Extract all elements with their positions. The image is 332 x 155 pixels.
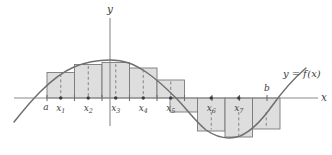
lower-bound-label-a: a: [43, 102, 48, 112]
x-axis-label: x: [321, 91, 327, 103]
upper-bound-label-b: b: [264, 83, 270, 93]
tick-label-x4: x4: [139, 103, 148, 115]
sample-dot-x3: [114, 96, 117, 99]
tick-label-x3: x3: [111, 103, 120, 115]
y-axis-label: y: [106, 3, 114, 15]
curve-equation-label: y=f(x): [282, 68, 321, 79]
tick-label-x1: x1: [56, 103, 65, 115]
sample-dot-x2: [87, 96, 90, 99]
sample-dot-x5: [169, 96, 172, 99]
sample-dot-x4: [142, 96, 145, 99]
figure-canvas: x y a b x1 x2 x3 x4 x5 x6: [0, 0, 332, 155]
riemann-sum-figure: x y a b x1 x2 x3 x4 x5 x6: [0, 0, 332, 155]
riemann-rectangle-2: [75, 65, 103, 99]
sample-dot-x7: [237, 96, 240, 99]
tick-label-x2: x2: [84, 103, 93, 115]
sample-dot-x1: [59, 96, 62, 99]
sample-dot-x6: [210, 96, 213, 99]
